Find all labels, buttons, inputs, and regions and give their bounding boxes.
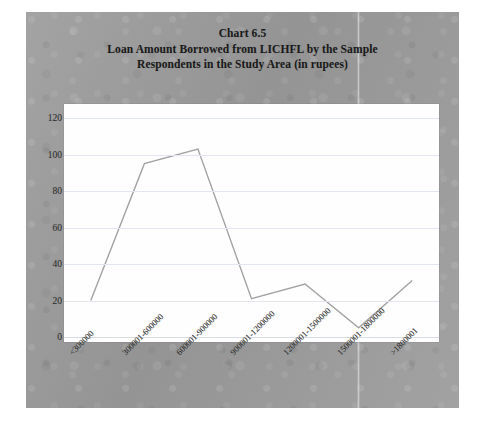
chart-title-line-3: Respondents in the Study Area (in rupees… [26, 57, 459, 73]
y-axis: 020406080100120 [26, 104, 62, 342]
y-tick-label-80: 80 [28, 186, 62, 196]
gridline-y-40 [64, 264, 439, 265]
chart-title-line-2: Loan Amount Borrowed from LICHFL by the … [26, 42, 459, 58]
chart-title-line-1: Chart 6.5 [26, 26, 459, 42]
y-tick-label-120: 120 [28, 113, 62, 123]
gridline-y-100 [64, 155, 439, 156]
y-tick-label-0: 0 [28, 332, 62, 342]
chart-title: Chart 6.5 Loan Amount Borrowed from LICH… [26, 26, 459, 73]
y-tick-label-20: 20 [28, 296, 62, 306]
gridline-y-80 [64, 191, 439, 192]
y-tick-label-100: 100 [28, 150, 62, 160]
y-tick-label-40: 40 [28, 259, 62, 269]
y-tick-label-60: 60 [28, 223, 62, 233]
x-axis: <300000300001-600000600001-900000900001-… [64, 344, 439, 418]
gridline-y-60 [64, 228, 439, 229]
plot-area [64, 104, 439, 342]
scanned-page-background: Chart 6.5 Loan Amount Borrowed from LICH… [26, 12, 459, 408]
chart-page: Chart 6.5 Loan Amount Borrowed from LICH… [0, 0, 486, 433]
plot-inner [64, 118, 439, 337]
gridline-y-120 [64, 118, 439, 119]
gridline-y-20 [64, 301, 439, 302]
